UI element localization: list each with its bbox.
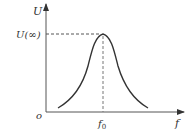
y-axis-label: U xyxy=(33,5,43,18)
resonant-frequency-label: f0 xyxy=(97,118,106,131)
x-axis-label: f xyxy=(174,117,181,130)
origin-label: o xyxy=(36,110,42,121)
resonance-chart: U U(∞) o f0 f xyxy=(0,0,194,133)
peak-value-label: U(∞) xyxy=(16,29,41,40)
